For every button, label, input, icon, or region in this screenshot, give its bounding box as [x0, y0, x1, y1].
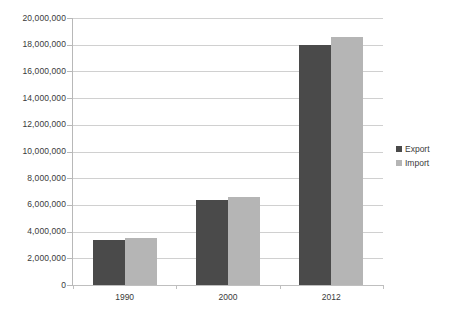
legend-label-export: Export: [405, 144, 430, 154]
y-tick-label: 18,000,000: [22, 40, 66, 49]
y-tick-label: 16,000,000: [22, 67, 66, 76]
y-tick-label: 2,000,000: [27, 254, 66, 263]
y-tick-label: 10,000,000: [22, 147, 66, 156]
x-tick-mark: [73, 285, 74, 289]
y-tick-mark: [67, 98, 72, 99]
bar-group-2000: [196, 18, 260, 285]
y-tick-mark: [67, 285, 72, 286]
y-tick-label: 4,000,000: [27, 227, 66, 236]
y-tick-mark: [67, 205, 72, 206]
y-tick-mark: [67, 45, 72, 46]
x-tick-label: 2012: [301, 292, 361, 302]
plot-area: [73, 18, 383, 285]
x-tick-label: 1990: [95, 292, 155, 302]
x-tick-label: 2000: [198, 292, 258, 302]
y-tick-mark: [67, 18, 72, 19]
y-tick-mark: [67, 178, 72, 179]
bar-export-2012: [299, 45, 331, 285]
legend-item-export: Export: [396, 142, 448, 156]
legend-item-import: Import: [396, 156, 448, 170]
bar-export-1990: [93, 240, 125, 285]
y-tick-mark: [67, 232, 72, 233]
bar-import-1990: [125, 238, 157, 285]
chart-legend: Export Import: [396, 142, 448, 170]
bar-group-2012: [299, 18, 363, 285]
y-tick-label: 6,000,000: [27, 200, 66, 209]
y-tick-mark: [67, 152, 72, 153]
legend-swatch-export-icon: [396, 146, 402, 152]
x-tick-mark: [280, 285, 281, 289]
y-tick-mark: [67, 258, 72, 259]
x-tick-mark: [176, 285, 177, 289]
y-tick-label: 20,000,000: [22, 14, 66, 23]
y-tick-mark: [67, 71, 72, 72]
gridline: [73, 285, 383, 286]
bar-export-2000: [196, 200, 228, 285]
legend-label-import: Import: [405, 158, 429, 168]
y-tick-label: 0: [61, 281, 66, 290]
bar-import-2012: [331, 37, 363, 285]
y-tick-label: 12,000,000: [22, 120, 66, 129]
bar-chart: 20,000,00018,000,00016,000,00014,000,000…: [0, 0, 450, 313]
bar-group-1990: [93, 18, 157, 285]
y-tick-mark: [67, 125, 72, 126]
y-tick-label: 8,000,000: [27, 174, 66, 183]
y-tick-label: 14,000,000: [22, 94, 66, 103]
legend-swatch-import-icon: [396, 160, 402, 166]
bar-import-2000: [228, 197, 260, 285]
x-tick-mark: [383, 285, 384, 289]
